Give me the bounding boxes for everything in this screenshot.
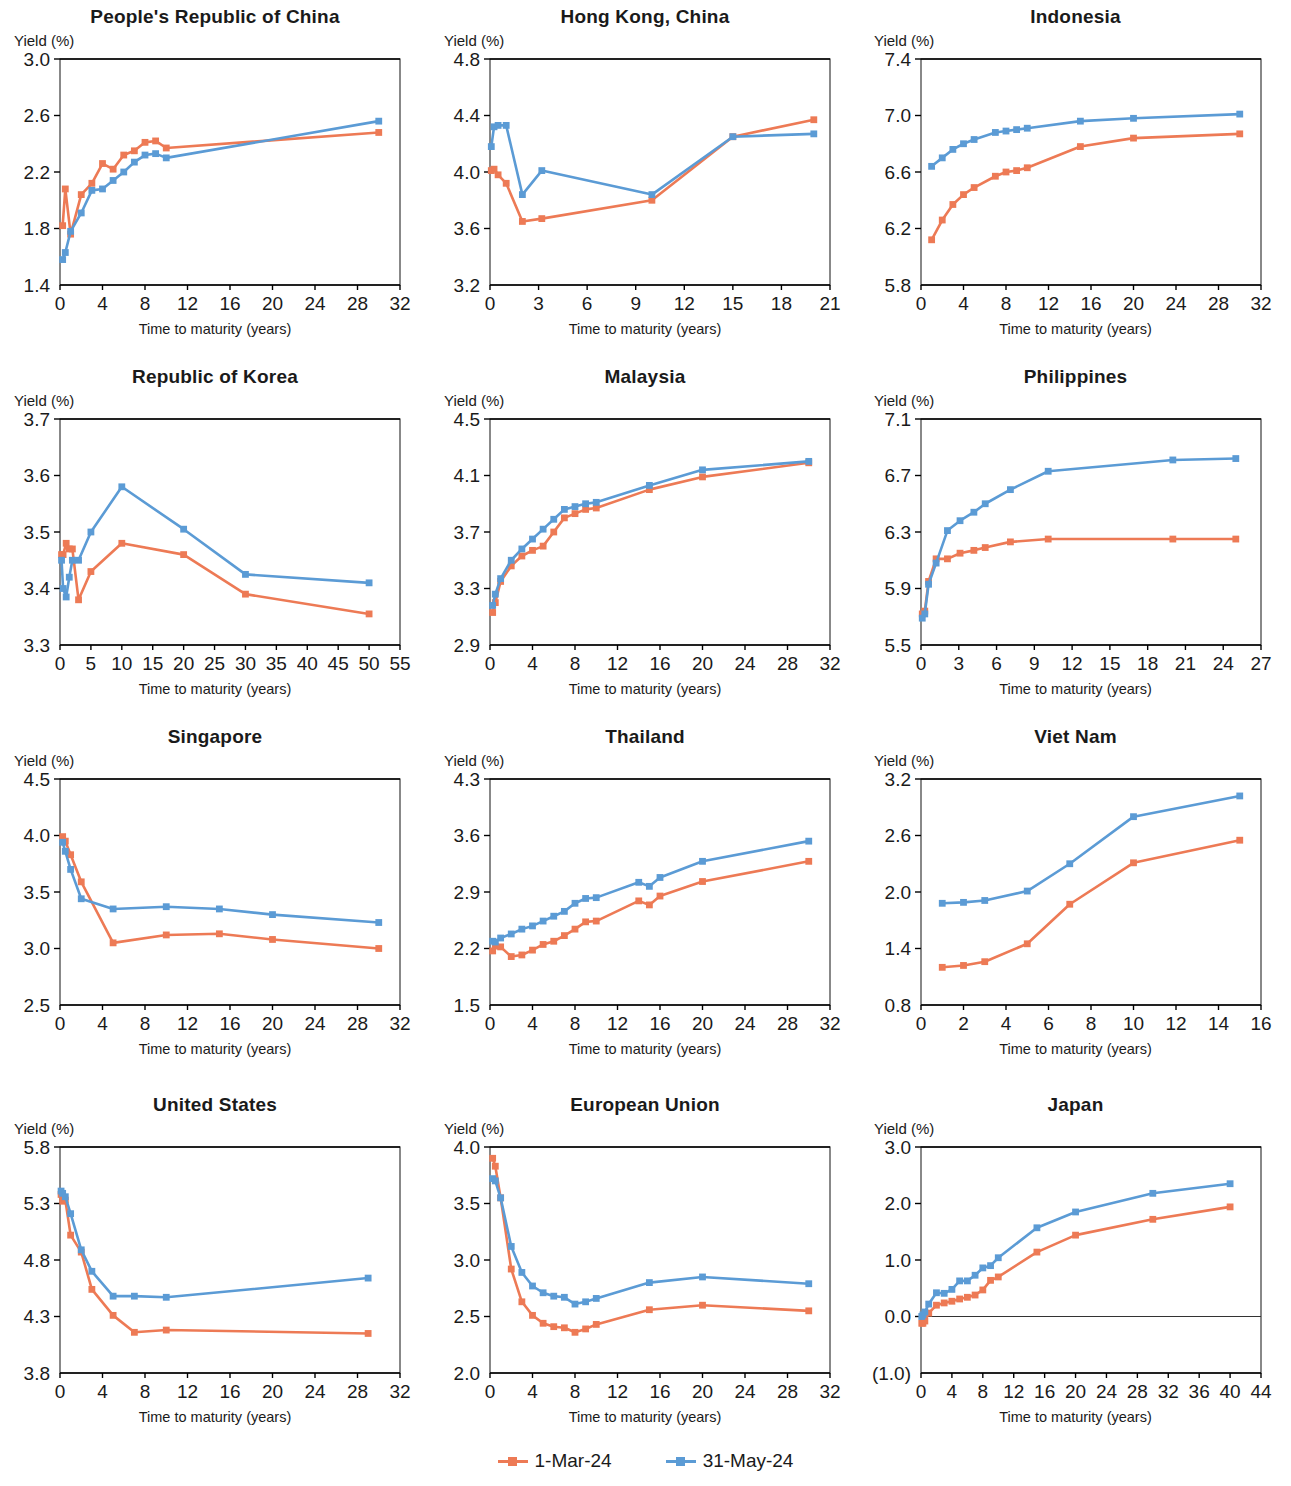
data-point-marker [928, 236, 935, 243]
y-tick-label: 4.8 [24, 1250, 50, 1271]
x-tick-label: 28 [1207, 293, 1228, 314]
x-tick-label: 20 [262, 1381, 283, 1402]
x-tick-label: 24 [1095, 1381, 1117, 1402]
x-tick-label: 8 [570, 653, 581, 674]
data-point-marker [59, 839, 66, 846]
chart-title: Singapore [0, 720, 430, 748]
data-point-marker [508, 953, 515, 960]
plot-area: 1.52.22.93.64.3048121620242832 [430, 769, 860, 1037]
data-point-marker [1236, 111, 1243, 118]
x-tick-label: 12 [177, 1381, 198, 1402]
data-point-marker [635, 879, 642, 886]
legend-marker-icon [498, 1454, 528, 1468]
data-point-marker [67, 866, 74, 873]
data-point-marker [78, 895, 85, 902]
x-tick-label: 3 [533, 293, 544, 314]
data-point-marker [561, 1294, 568, 1301]
x-tick-label: 18 [1137, 653, 1158, 674]
data-point-marker [561, 1324, 568, 1331]
data-point-marker [78, 191, 85, 198]
data-point-marker [529, 947, 536, 954]
chart-panel: People's Republic of ChinaYield (%)1.41.… [0, 0, 430, 360]
x-tick-label: 16 [1034, 1381, 1055, 1402]
data-point-marker [940, 1290, 947, 1297]
data-point-marker [1236, 130, 1243, 137]
data-point-marker [110, 939, 117, 946]
data-point-marker [805, 858, 812, 865]
y-tick-label: 4.5 [454, 409, 480, 430]
data-point-marker [1023, 888, 1030, 895]
data-point-marker [805, 838, 812, 845]
data-point-marker [497, 575, 504, 582]
chart-title: Republic of Korea [0, 360, 430, 388]
data-point-marker [582, 500, 589, 507]
data-point-marker [488, 143, 495, 150]
data-point-marker [66, 574, 73, 581]
x-tick-label: 24 [734, 1381, 756, 1402]
data-point-marker [1232, 455, 1239, 462]
data-point-marker [163, 154, 170, 161]
data-point-marker [180, 551, 187, 558]
figure-legend: 1-Mar-2431-May-24 [0, 1450, 1291, 1472]
data-point-marker [365, 1330, 372, 1337]
data-point-marker [59, 222, 66, 229]
data-point-marker [956, 550, 963, 557]
data-point-marker [62, 848, 69, 855]
y-tick-label: 0.8 [884, 995, 910, 1016]
data-point-marker [1130, 115, 1137, 122]
data-point-marker [970, 184, 977, 191]
data-point-marker [1169, 536, 1176, 543]
data-point-marker [805, 1307, 812, 1314]
data-point-marker [88, 1268, 95, 1275]
data-point-marker [1023, 125, 1030, 132]
y-tick-label: 3.0 [454, 1250, 480, 1271]
x-tick-label: 12 [607, 1013, 628, 1034]
x-tick-label: 4 [946, 1381, 957, 1402]
x-tick-label: 8 [570, 1381, 581, 1402]
data-point-marker [99, 160, 106, 167]
y-tick-label: 4.0 [454, 162, 480, 183]
x-tick-label: 32 [389, 1013, 410, 1034]
x-axis-label: Time to maturity (years) [860, 681, 1291, 697]
y-tick-label: 1.8 [24, 218, 50, 239]
x-tick-label: 45 [328, 653, 349, 674]
x-tick-label: 10 [1122, 1013, 1143, 1034]
y-tick-label: 2.9 [454, 635, 480, 656]
data-point-marker [1013, 167, 1020, 174]
data-point-marker [269, 911, 276, 918]
y-tick-label: (1.0) [871, 1363, 910, 1384]
plot-area: 0.81.42.02.63.20246810121416 [860, 769, 1291, 1037]
chart-title: Thailand [430, 720, 860, 748]
data-point-marker [991, 173, 998, 180]
y-tick-label: 3.7 [454, 522, 480, 543]
data-point-marker [979, 1265, 986, 1272]
y-axis-label: Yield (%) [14, 392, 430, 409]
x-tick-label: 12 [1037, 293, 1058, 314]
x-tick-label: 0 [55, 293, 66, 314]
x-tick-label: 24 [1165, 293, 1187, 314]
x-tick-label: 8 [140, 293, 151, 314]
chart-panel: European UnionYield (%)2.02.53.03.54.004… [430, 1088, 860, 1438]
x-tick-label: 0 [915, 1381, 926, 1402]
data-point-marker [529, 1283, 536, 1290]
data-point-marker [938, 154, 945, 161]
data-point-marker [99, 186, 106, 193]
data-point-marker [1236, 793, 1243, 800]
chart-panel: IndonesiaYield (%)5.86.26.67.07.40481216… [860, 0, 1291, 360]
y-tick-label: 2.6 [24, 105, 50, 126]
data-point-marker [366, 611, 373, 618]
data-point-marker [805, 458, 812, 465]
x-tick-label: 4 [527, 1013, 538, 1034]
data-point-marker [163, 932, 170, 939]
data-point-marker [1044, 536, 1051, 543]
data-point-marker [649, 191, 656, 198]
y-tick-label: 4.8 [454, 49, 480, 70]
data-point-marker [1066, 860, 1073, 867]
x-tick-label: 50 [359, 653, 380, 674]
x-tick-label: 28 [347, 1013, 368, 1034]
chart-title: United States [0, 1088, 430, 1116]
data-point-marker [699, 878, 706, 885]
x-tick-label: 21 [1174, 653, 1195, 674]
x-tick-label: 20 [173, 653, 194, 674]
data-point-marker [60, 585, 67, 592]
